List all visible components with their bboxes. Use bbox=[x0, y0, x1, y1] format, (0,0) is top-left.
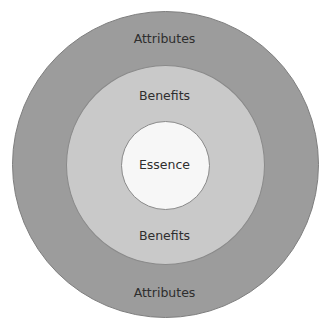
benefits-label-top: Benefits bbox=[0, 89, 329, 103]
essence-label: Essence bbox=[0, 158, 329, 172]
attributes-label-top: Attributes bbox=[0, 32, 329, 46]
benefits-label-bottom: Benefits bbox=[0, 229, 329, 243]
attributes-label-bottom: Attributes bbox=[0, 286, 329, 300]
